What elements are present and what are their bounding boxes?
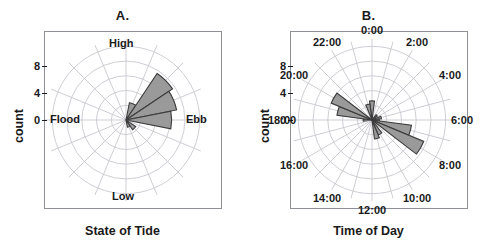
panel-a-dirlabel-ebb: Ebb bbox=[186, 113, 207, 125]
panel-b-dirlabel-12-00: 12:00 bbox=[358, 204, 386, 216]
panel-a-ytickmark-8 bbox=[42, 66, 47, 67]
panel-a: A. count 0 4 8 High Ebb Low Flood State … bbox=[0, 0, 245, 250]
panel-b-dirlabel-6-00: 6:00 bbox=[451, 114, 473, 126]
panel-a-ytick-0: 0 bbox=[14, 114, 40, 126]
panel-b-title: B. bbox=[246, 8, 491, 23]
panel-a-ytick-8: 8 bbox=[14, 60, 40, 72]
panel-b-dirlabel-22-00: 22:00 bbox=[313, 36, 341, 48]
panel-b: B. count 0 4 8 Time of Day 0:002:004:006… bbox=[246, 0, 491, 250]
panel-a-dirlabel-flood: Flood bbox=[50, 113, 80, 125]
panel-b-dirlabel-4-00: 4:00 bbox=[439, 69, 461, 81]
panel-a-ytick-4: 4 bbox=[14, 87, 40, 99]
panel-b-axis-title: Time of Day bbox=[246, 224, 491, 238]
panel-b-dirlabel-14-00: 14:00 bbox=[313, 192, 341, 204]
panel-b-dirlabel-8-00: 8:00 bbox=[439, 159, 461, 171]
panel-a-dirlabel-low: Low bbox=[112, 190, 134, 202]
panel-b-dirlabel-18-00: 18:00 bbox=[268, 114, 296, 126]
panel-b-ytickmark-4 bbox=[288, 93, 293, 94]
panel-b-dirlabel-10-00: 10:00 bbox=[403, 192, 431, 204]
panel-a-ytickmark-4 bbox=[42, 93, 47, 94]
rose-diagram-figure: A. count 0 4 8 High Ebb Low Flood State … bbox=[0, 0, 491, 250]
panel-a-axis-title: State of Tide bbox=[0, 224, 245, 238]
panel-b-ytickmark-8 bbox=[288, 66, 293, 67]
panel-b-polar-plot bbox=[290, 31, 468, 209]
panel-a-dirlabel-high: High bbox=[109, 37, 133, 49]
panel-a-ytickmark-0 bbox=[42, 120, 47, 121]
panel-a-title: A. bbox=[0, 8, 245, 23]
panel-b-dirlabel-0-00: 0:00 bbox=[361, 24, 383, 36]
panel-b-dirlabel-2-00: 2:00 bbox=[406, 36, 428, 48]
panel-b-ytick-4: 4 bbox=[260, 87, 286, 99]
panel-b-dirlabel-16-00: 16:00 bbox=[280, 159, 308, 171]
panel-b-dirlabel-20-00: 20:00 bbox=[280, 69, 308, 81]
